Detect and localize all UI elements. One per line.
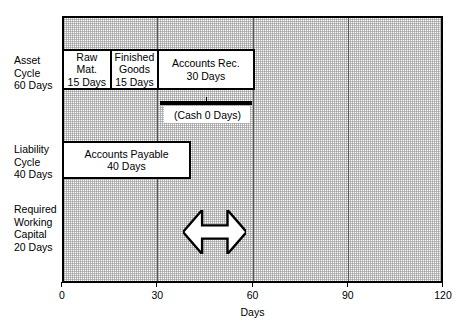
x-axis-tick-label-0: 0 [59,289,65,301]
bar-accounts-payable: Accounts Payable40 Days [62,141,191,179]
gridline-90-days [348,18,349,281]
bar-raw-materials: RawMat.15 Days [62,49,112,90]
row-label-liability-cycle-line-2: 40 Days [14,168,53,181]
bar-finished-goods-line-0: Finished [115,51,155,64]
bar-accounts-payable-line-1: 40 Days [107,160,146,173]
x-axis-tick-60 [252,282,253,287]
x-axis-tick-label-90: 90 [342,289,354,301]
plot-inner: RawMat.15 DaysFinishedGoods15 DaysAccoun… [64,18,441,281]
row-label-asset-cycle: AssetCycle60 Days [14,54,53,92]
x-axis-tick-label-60: 60 [247,289,259,301]
plot-area: RawMat.15 DaysFinishedGoods15 DaysAccoun… [62,16,443,283]
x-axis-tick-label-30: 30 [151,289,163,301]
cash-callout-label: (Cash 0 Days) [164,106,250,123]
row-label-required-working-capital-line-2: Capital [14,228,57,241]
double-headed-arrow-icon [183,210,247,254]
row-label-required-working-capital-line-0: Required [14,203,57,216]
row-label-liability-cycle-line-0: Liability [14,143,53,156]
row-label-required-working-capital-line-1: Working [14,216,57,229]
x-axis-tick-90 [347,282,348,287]
row-label-liability-cycle: LiabilityCycle40 Days [14,143,53,181]
row-label-required-working-capital: RequiredWorkingCapital20 Days [14,203,57,253]
bar-finished-goods-line-2: 15 Days [115,76,154,89]
bar-accounts-receivable: Accounts Rec.30 Days [157,49,254,90]
x-axis-tick-30 [156,282,157,287]
cash-callout-pointer-icon [206,97,207,102]
bar-raw-materials-line-1: Mat. [77,63,97,76]
x-axis-tick-label-120: 120 [434,289,452,301]
working-capital-arrow [183,210,247,254]
row-label-asset-cycle-line-2: 60 Days [14,79,53,92]
row-label-liability-cycle-line-1: Cycle [14,156,53,169]
bar-accounts-payable-line-0: Accounts Payable [84,148,168,161]
x-axis-title: Days [241,306,265,318]
bar-accounts-receivable-line-1: 30 Days [187,70,226,83]
bar-finished-goods: FinishedGoods15 Days [110,49,160,90]
working-capital-cycle-diagram: AssetCycle60 Days LiabilityCycle40 Days … [0,0,468,334]
row-label-required-working-capital-line-3: 20 Days [14,241,57,254]
x-axis-tick-120 [442,282,443,287]
bar-raw-materials-line-2: 15 Days [68,76,107,89]
bar-finished-goods-line-1: Goods [119,63,150,76]
bar-raw-materials-line-0: Raw [76,51,97,64]
row-label-asset-cycle-line-0: Asset [14,54,53,67]
row-label-asset-cycle-line-1: Cycle [14,67,53,80]
x-axis-tick-0 [61,282,62,287]
bar-accounts-receivable-line-0: Accounts Rec. [172,57,240,70]
